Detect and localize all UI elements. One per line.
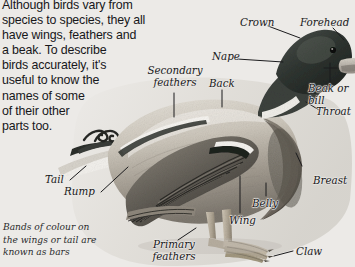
label-claw: Claw (296, 246, 322, 258)
label-crown: Crown (240, 17, 274, 29)
label-rump: Rump (64, 186, 95, 198)
bird-anatomy-diagram: Although birds vary from species to spec… (0, 0, 355, 267)
label-forehead: Forehead (300, 17, 349, 29)
bars-caption: Bands of colour on the wings or tail are… (3, 221, 133, 259)
label-nape: Nape (212, 51, 240, 63)
label-primary-feathers: Primary feathers (146, 239, 202, 262)
label-throat: Throat (316, 106, 351, 118)
label-tail: Tail (45, 174, 64, 186)
label-wing: Wing (229, 215, 256, 227)
label-secondary-feathers: Secondary feathers (141, 65, 209, 88)
label-beak-or-bill: Beak or bill (308, 83, 355, 106)
label-back: Back (209, 78, 235, 90)
label-breast: Breast (313, 175, 347, 187)
label-belly: Belly (252, 198, 278, 210)
